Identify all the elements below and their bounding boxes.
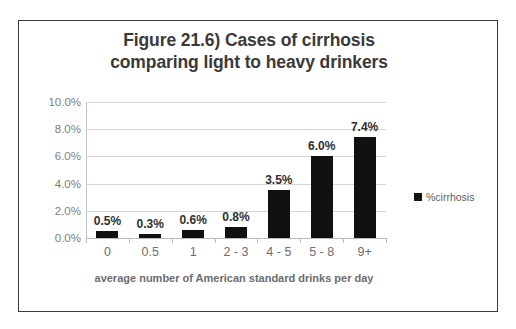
bar[interactable] bbox=[268, 190, 290, 238]
x-axis-tick-labels: 00.512 - 34 - 55 - 89+ bbox=[86, 245, 386, 265]
x-axis-tick-label: 0.5 bbox=[142, 245, 159, 259]
bar-value-label: 0.5% bbox=[94, 214, 121, 228]
x-axis-tick-label: 1 bbox=[190, 245, 197, 259]
bar-value-label: 0.3% bbox=[137, 217, 164, 231]
x-axis-tick-mark bbox=[129, 238, 130, 243]
x-axis-tick-mark bbox=[215, 238, 216, 243]
x-axis-tick-label: 4 - 5 bbox=[266, 245, 291, 259]
bar-group: 0.5% bbox=[86, 102, 129, 238]
bar[interactable] bbox=[311, 156, 333, 238]
y-axis-labels: 10.0%8.0%6.0%4.0%2.0%0.0% bbox=[23, 102, 81, 238]
bar-group: 0.8% bbox=[215, 102, 258, 238]
x-axis-tick-label: 9+ bbox=[357, 245, 371, 259]
x-axis-tick-mark bbox=[300, 238, 301, 243]
chart-title-line-2: comparing light to heavy drinkers bbox=[39, 51, 459, 73]
bar-group: 0.3% bbox=[129, 102, 172, 238]
bar[interactable] bbox=[225, 227, 247, 238]
y-axis-tick-label: 0.0% bbox=[29, 232, 81, 244]
plot-area: 0.5%0.3%0.6%0.8%3.5%6.0%7.4% bbox=[86, 102, 386, 238]
x-axis-tick-label: 5 - 8 bbox=[309, 245, 334, 259]
legend-series-label: %cirrhosis bbox=[426, 191, 474, 203]
x-axis-tick-mark bbox=[172, 238, 173, 243]
bar[interactable] bbox=[182, 230, 204, 238]
y-axis-tick-label: 6.0% bbox=[29, 150, 81, 162]
x-axis-tick-mark bbox=[257, 238, 258, 243]
bar[interactable] bbox=[354, 137, 376, 238]
figure-frame: Figure 21.6) Cases of cirrhosis comparin… bbox=[18, 20, 498, 312]
x-axis-tick-mark bbox=[86, 238, 87, 243]
bar-value-label: 0.6% bbox=[179, 213, 206, 227]
x-axis-tick-mark bbox=[386, 238, 387, 243]
bar-group: 7.4% bbox=[343, 102, 386, 238]
bar[interactable] bbox=[96, 231, 118, 238]
chart-title-line-1: Figure 21.6) Cases of cirrhosis bbox=[39, 29, 459, 51]
x-axis-tick-label: 0 bbox=[104, 245, 111, 259]
y-axis-tick-label: 10.0% bbox=[29, 96, 81, 108]
bar-value-label: 7.4% bbox=[351, 120, 378, 134]
x-axis-ticks bbox=[86, 238, 386, 243]
bar-value-label: 3.5% bbox=[265, 173, 292, 187]
x-axis-title: average number of American standard drin… bbox=[59, 272, 409, 284]
legend-swatch-icon bbox=[414, 193, 422, 201]
x-axis-tick-mark bbox=[343, 238, 344, 243]
chart-title: Figure 21.6) Cases of cirrhosis comparin… bbox=[39, 29, 459, 74]
bar-group: 6.0% bbox=[300, 102, 343, 238]
bar-value-label: 0.8% bbox=[222, 210, 249, 224]
x-axis-tick-label: 2 - 3 bbox=[223, 245, 248, 259]
y-axis-tick-label: 8.0% bbox=[29, 123, 81, 135]
y-axis-tick-label: 4.0% bbox=[29, 178, 81, 190]
chart-legend: %cirrhosis bbox=[414, 191, 474, 203]
bar-group: 3.5% bbox=[257, 102, 300, 238]
y-axis-tick-label: 2.0% bbox=[29, 205, 81, 217]
bar-value-label: 6.0% bbox=[308, 139, 335, 153]
bar-group: 0.6% bbox=[172, 102, 215, 238]
